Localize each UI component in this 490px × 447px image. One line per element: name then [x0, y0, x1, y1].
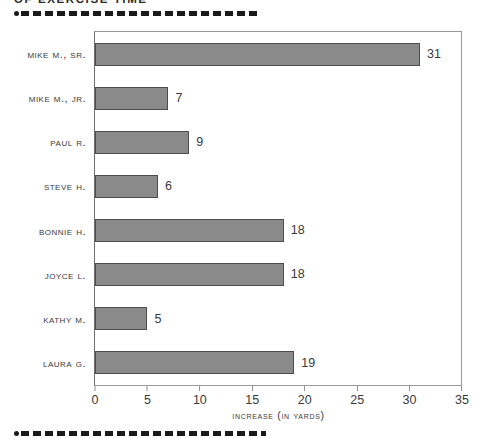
x-axis-tick: 0: [92, 386, 99, 407]
y-axis-label: Kathy M.: [0, 297, 86, 341]
bar: [95, 263, 284, 286]
dashed-line: [21, 431, 266, 436]
bar-row: 5: [95, 297, 462, 341]
bar: [95, 87, 168, 110]
x-axis-title: Increase (in yards): [95, 409, 462, 421]
y-axis-label: Paul R.: [0, 120, 86, 164]
tick-mark: [94, 386, 95, 391]
x-axis-tick: 10: [193, 386, 207, 407]
bar: [95, 175, 158, 198]
y-axis-label: Laura G.: [0, 341, 86, 385]
bar-row: 6: [95, 164, 462, 208]
bar-value-label: 18: [291, 268, 305, 281]
y-axis-label: Bonnie H.: [0, 209, 86, 253]
x-axis-ticks: 05101520253035: [95, 386, 462, 410]
bar: [95, 307, 147, 330]
tick-label: 25: [350, 394, 364, 407]
tick-mark: [199, 386, 200, 391]
bar-row: 18: [95, 209, 462, 253]
y-axis-labels: Mike M., Sr.Mike M., Jr.Paul R.Steve H.B…: [0, 32, 86, 385]
bar-chart: Mike M., Sr.Mike M., Jr.Paul R.Steve H.B…: [0, 0, 490, 447]
tick-mark: [409, 386, 410, 391]
x-axis-tick: 20: [298, 386, 312, 407]
tick-mark: [304, 386, 305, 391]
bullet-icon: [14, 431, 19, 436]
bar-rows: 317961818519: [95, 32, 462, 385]
x-axis-tick: 25: [350, 386, 364, 407]
tick-mark: [147, 386, 148, 391]
decorative-rule-bottom: [14, 429, 266, 437]
bar-row: 31: [95, 32, 462, 76]
y-axis-label: Mike M., Jr.: [0, 76, 86, 120]
tick-label: 20: [298, 394, 312, 407]
bar: [95, 131, 189, 154]
tick-label: 35: [455, 394, 469, 407]
x-axis-tick: 5: [144, 386, 151, 407]
bar-row: 18: [95, 253, 462, 297]
tick-label: 0: [92, 394, 99, 407]
tick-mark: [252, 386, 253, 391]
tick-label: 10: [193, 394, 207, 407]
bar-value-label: 9: [196, 136, 203, 149]
bar-value-label: 31: [427, 48, 441, 61]
bar: [95, 43, 420, 66]
bar: [95, 219, 284, 242]
bar-value-label: 6: [165, 180, 172, 193]
x-axis-tick: 15: [245, 386, 259, 407]
y-axis-label: Joyce L.: [0, 253, 86, 297]
bar-row: 9: [95, 120, 462, 164]
bar-value-label: 18: [291, 224, 305, 237]
tick-label: 15: [245, 394, 259, 407]
bar-value-label: 5: [154, 313, 161, 326]
tick-label: 5: [144, 394, 151, 407]
bar-value-label: 7: [175, 92, 182, 105]
bar-row: 7: [95, 76, 462, 120]
bar-row: 19: [95, 341, 462, 385]
y-axis-label: Steve H.: [0, 164, 86, 208]
tick-mark: [357, 386, 358, 391]
tick-label: 30: [403, 394, 417, 407]
x-axis-tick: 30: [403, 386, 417, 407]
x-axis-tick: 35: [455, 386, 469, 407]
tick-mark: [462, 386, 463, 391]
bar: [95, 351, 294, 374]
y-axis-label: Mike M., Sr.: [0, 32, 86, 76]
bar-value-label: 19: [301, 357, 315, 370]
